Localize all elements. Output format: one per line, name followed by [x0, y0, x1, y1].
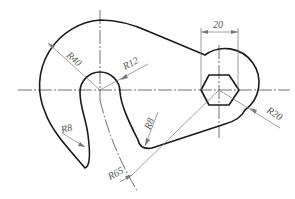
- r12-arrow: [120, 74, 128, 80]
- dimension-lines: [48, 28, 280, 182]
- label-r8-right: R8: [141, 116, 156, 131]
- label-r8-left: R8: [59, 121, 74, 135]
- engineering-drawing: R40 R12 R8 R8 R65 R20 20: [0, 0, 295, 199]
- label-r40: R40: [64, 49, 84, 69]
- r65-arc-centerline: [100, 100, 138, 192]
- r65-arrow: [125, 175, 132, 180]
- r8-left-arrow: [78, 142, 85, 147]
- width-arrow-right: [231, 30, 238, 34]
- label-width-20: 20: [213, 19, 223, 30]
- part-outline: [40, 20, 259, 168]
- r8-right-arrow: [145, 138, 150, 146]
- label-r65: R65: [105, 164, 125, 182]
- dimension-labels: R40 R12 R8 R8 R65 R20 20: [59, 19, 285, 182]
- width-arrow-left: [201, 30, 208, 34]
- outer-contour: [40, 20, 259, 168]
- label-r20: R20: [264, 104, 284, 122]
- centerlines: [18, 10, 290, 192]
- r65-leader: [132, 90, 219, 175]
